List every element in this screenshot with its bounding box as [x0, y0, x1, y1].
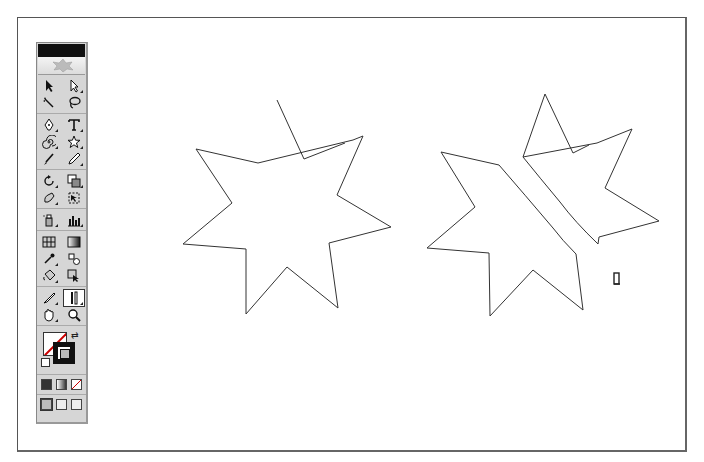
scissors-tool[interactable] [64, 290, 84, 306]
scale-tool[interactable] [64, 173, 84, 189]
magic-wand-icon [42, 96, 56, 110]
lasso-tool[interactable] [64, 95, 84, 111]
eyedropper-icon [42, 252, 56, 266]
screen-mode-buttons [37, 395, 86, 414]
mesh-tool[interactable] [39, 234, 59, 250]
bar-graph-icon [67, 213, 81, 227]
warp-hand-icon [42, 191, 56, 205]
hand-tool[interactable] [39, 307, 59, 323]
color-mode-button[interactable] [41, 379, 52, 390]
scissors-cursor-icon [614, 273, 620, 284]
live-paint-selection-tool[interactable] [64, 268, 84, 284]
hollow-arrow-icon [67, 79, 81, 93]
tools-panel-title-bar[interactable] [38, 44, 85, 57]
knife-tool[interactable] [39, 290, 59, 306]
star-icon [67, 135, 81, 149]
direct-selection-tool[interactable] [64, 78, 84, 94]
star-cut-left-piece[interactable] [427, 152, 583, 316]
rotate-tool[interactable] [39, 173, 59, 189]
pen-nib-icon [42, 118, 56, 132]
arrow-icon [42, 79, 56, 93]
magic-wand-tool[interactable] [39, 95, 59, 111]
fill-stroke-controls: ⇄ [37, 326, 86, 375]
mesh-grid-icon [42, 235, 56, 249]
none-mode-button[interactable] [71, 379, 82, 390]
paintbrush-icon [42, 152, 56, 166]
default-fill-stroke-icon[interactable] [41, 358, 50, 367]
paintbrush-tool[interactable] [39, 151, 59, 167]
free-transform-tool[interactable] [64, 190, 84, 206]
free-transform-icon [67, 191, 81, 205]
paint-selection-icon [67, 269, 81, 283]
hand-icon [42, 308, 56, 322]
rotate-icon [42, 174, 56, 188]
warp-tool[interactable] [39, 190, 59, 206]
star-original[interactable] [183, 100, 391, 314]
swap-fill-stroke-icon[interactable]: ⇄ [71, 330, 79, 340]
type-t-icon [67, 118, 81, 132]
spiral-icon [42, 135, 56, 149]
star-tool[interactable] [64, 134, 84, 150]
pen-tool[interactable] [39, 117, 59, 133]
paint-bucket-icon [42, 269, 56, 283]
lasso-icon [67, 96, 81, 110]
flower-logo-icon [50, 58, 76, 73]
full-screen-menu-mode-button[interactable] [56, 399, 67, 410]
gradient-icon [67, 235, 81, 249]
color-mode-buttons [37, 375, 86, 395]
graph-tool[interactable] [64, 212, 84, 228]
selection-tool[interactable] [39, 78, 59, 94]
magnifier-icon [67, 308, 81, 322]
artboard[interactable] [0, 0, 704, 462]
stroke-swatch[interactable] [53, 342, 75, 364]
star-cut-right-piece[interactable] [523, 94, 659, 244]
scissors-icon [67, 291, 81, 305]
eyedropper-tool[interactable] [39, 251, 59, 267]
pencil-tool[interactable] [64, 151, 84, 167]
tools-panel[interactable]: ⇄ [36, 42, 88, 424]
spiral-tool[interactable] [39, 134, 59, 150]
blend-icon [67, 252, 81, 266]
live-paint-bucket-tool[interactable] [39, 268, 59, 284]
blend-tool[interactable] [64, 251, 84, 267]
gradient-tool[interactable] [64, 234, 84, 250]
knife-icon [42, 291, 56, 305]
gradient-mode-button[interactable] [56, 379, 67, 390]
type-tool[interactable] [64, 117, 84, 133]
zoom-tool[interactable] [64, 307, 84, 323]
symbol-sprayer-tool[interactable] [39, 212, 59, 228]
pencil-icon [67, 152, 81, 166]
app-logo[interactable] [38, 57, 85, 75]
standard-screen-mode-button[interactable] [41, 399, 52, 410]
scale-icon [67, 174, 81, 188]
spray-can-icon [42, 213, 56, 227]
full-screen-mode-button[interactable] [71, 399, 82, 410]
